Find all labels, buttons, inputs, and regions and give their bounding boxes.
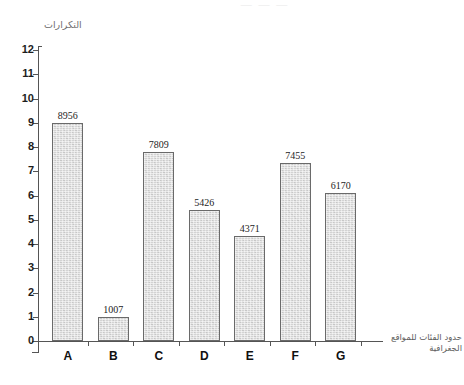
bar-value-label: 1007 [103, 304, 123, 315]
bar-b[interactable]: 1007 [98, 317, 129, 341]
top-edge-artifact: — — — [222, 0, 308, 9]
bar-d[interactable]: 5426 [189, 210, 220, 341]
y-axis-label: التكرارات [44, 19, 82, 30]
x-axis-category-label: G [336, 349, 345, 363]
bar-slot: 7455F [273, 50, 319, 341]
bar-slot: 7809C [136, 50, 182, 341]
x-axis-tick [270, 341, 271, 346]
x-axis-tick [133, 341, 134, 346]
bar-value-label: 6170 [331, 180, 351, 191]
bar-value-label: 4371 [240, 223, 260, 234]
y-axis-top-cap [38, 46, 42, 47]
y-axis-tick-label: 10 [22, 92, 34, 104]
x-axis-category-label: E [246, 349, 254, 363]
bar-c[interactable]: 7809 [143, 152, 174, 341]
x-axis-label-line-2: الجغرافية [386, 343, 462, 354]
x-axis-category-label: F [292, 349, 299, 363]
y-axis-tick-label: 9 [28, 116, 34, 128]
bar-g[interactable]: 6170 [325, 193, 356, 341]
bar-slot: 4371E [227, 50, 273, 341]
x-axis-category-label: C [154, 349, 163, 363]
x-axis-category-label: D [200, 349, 209, 363]
x-axis-tick [224, 341, 225, 346]
y-axis-tick-label: 0 [28, 334, 34, 346]
y-axis-tick-label: 11 [22, 67, 34, 79]
bar-value-label: 5426 [194, 197, 214, 208]
y-axis-tick-label: 4 [28, 237, 34, 249]
x-axis-label: حدود الفئات للمواقع الجغرافية [386, 332, 462, 354]
y-axis-tick-label: 7 [28, 164, 34, 176]
plot-area: 0123456789101112 8956A1007B7809C5426D437… [38, 50, 383, 341]
bar-slot: 1007B [91, 50, 137, 341]
x-axis-line [32, 341, 383, 342]
y-axis-tick-label: 1 [28, 310, 34, 322]
bar-a[interactable]: 8956 [52, 123, 83, 341]
x-axis-tick [179, 341, 180, 346]
y-axis-tick-label: 3 [28, 261, 34, 273]
bar-f[interactable]: 7455 [280, 163, 311, 341]
y-axis-tick-label: 8 [28, 140, 34, 152]
bar-value-label: 7455 [285, 150, 305, 161]
x-axis-tick [88, 341, 89, 346]
x-axis-category-label: A [63, 349, 72, 363]
bar-e[interactable]: 4371 [234, 236, 265, 341]
x-axis-label-line-1: حدود الفئات للمواقع [386, 332, 462, 343]
y-axis-tick-label: 6 [28, 189, 34, 201]
y-axis-tick-label: 5 [28, 213, 34, 225]
bar-slot: 8956A [45, 50, 91, 341]
x-axis-tick [315, 341, 316, 346]
bar-slot: 5426D [182, 50, 228, 341]
x-axis-category-label: B [109, 349, 118, 363]
bar-slot: 6170G [318, 50, 364, 341]
y-axis-tick-label: 12 [22, 43, 34, 55]
x-axis-tick [361, 341, 362, 346]
y-axis-tick-label: 2 [28, 286, 34, 298]
bar-value-label: 7809 [149, 139, 169, 150]
y-axis-foot-cap [32, 352, 39, 353]
bar-value-label: 8956 [58, 110, 78, 121]
y-axis-line [38, 46, 39, 349]
